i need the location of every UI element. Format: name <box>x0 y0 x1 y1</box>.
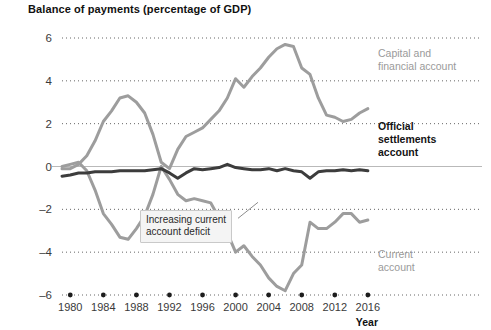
x-tick-label: 1996 <box>190 301 214 313</box>
x-tick-mark <box>233 293 238 298</box>
series-label-current-line2: account <box>378 261 415 273</box>
y-tick-label: 0 <box>46 161 52 173</box>
x-tick-label: 1980 <box>58 301 82 313</box>
x-tick-mark <box>167 293 172 298</box>
balance-of-payments-chart: Balance of payments (percentage of GDP) … <box>0 0 491 330</box>
x-tick-mark <box>68 293 73 298</box>
x-tick-mark <box>134 293 139 298</box>
x-tick-label: 2012 <box>323 301 347 313</box>
series-label-official-line2: settlements <box>378 133 437 145</box>
x-tick-label: 2000 <box>223 301 247 313</box>
annotation-line2: account deficit <box>146 226 226 238</box>
x-tick-label: 2008 <box>289 301 313 313</box>
y-tick-label: –2 <box>39 203 52 215</box>
series-label-capital-line1: Capital and <box>378 47 431 59</box>
x-axis-tick-labels: 1980198419881992199620002004200820122016 <box>58 301 380 313</box>
y-tick-label: 2 <box>46 118 52 130</box>
x-tick-label: 1988 <box>124 301 148 313</box>
x-axis-tick-marks <box>68 293 370 298</box>
series-label-capital-and-financial-account: Capital and financial account <box>378 47 456 72</box>
chart-plot-area: 6420–2–4–6 19801984198819921996200020042… <box>0 0 491 330</box>
series-label-capital-line2: financial account <box>378 60 456 72</box>
series-label-official-line1: Official <box>378 120 414 132</box>
y-tick-label: –4 <box>39 246 52 258</box>
y-tick-label: 4 <box>46 75 53 87</box>
x-tick-label: 2004 <box>256 301 280 313</box>
x-tick-label: 2016 <box>356 301 380 313</box>
x-tick-mark <box>365 293 370 298</box>
y-axis-tick-labels: 6420–2–4–6 <box>39 32 52 301</box>
x-tick-mark <box>266 293 271 298</box>
annotation-line1: Increasing current <box>146 214 226 226</box>
x-tick-mark <box>299 293 304 298</box>
series-label-official-settlements-account: Official settlements account <box>378 120 437 158</box>
data-series-group <box>62 44 368 290</box>
y-tick-label: 6 <box>46 32 52 44</box>
series-label-current-line1: Current <box>378 248 413 260</box>
series-label-current-account: Current account <box>378 248 415 273</box>
series-line-0 <box>62 44 368 168</box>
x-tick-mark <box>101 293 106 298</box>
annotation-leader-lines <box>238 202 258 218</box>
series-label-official-line3: account <box>378 146 419 158</box>
x-tick-label: 1992 <box>157 301 181 313</box>
y-tick-label: –6 <box>39 289 52 301</box>
x-axis-title: Year <box>356 316 378 328</box>
x-tick-mark <box>200 293 205 298</box>
x-tick-mark <box>332 293 337 298</box>
annotation-increasing-current-account-deficit: Increasing current account deficit <box>140 210 232 243</box>
x-tick-label: 1984 <box>91 301 115 313</box>
